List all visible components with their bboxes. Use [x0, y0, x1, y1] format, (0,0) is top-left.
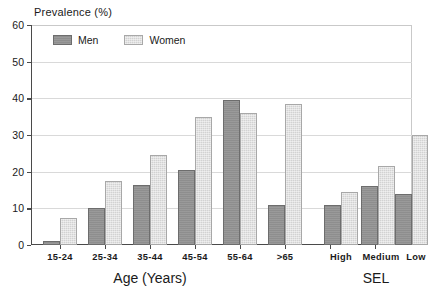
x-label-low: Low	[406, 252, 426, 262]
bar-men-low	[395, 194, 412, 245]
y-tick-label-20: 20	[2, 166, 24, 178]
y-tick-label-30: 30	[2, 129, 24, 141]
bar-men-high	[324, 205, 341, 245]
x-tick-mark-6	[330, 245, 331, 249]
panel-title-sel: SEL	[363, 270, 389, 286]
chart-legend: Men Women	[53, 34, 211, 46]
bar-women-high	[341, 192, 358, 245]
bar-men-25-34	[88, 208, 105, 245]
bar-men-15-24	[43, 241, 60, 245]
panel-title-age: Age (Years)	[113, 270, 186, 286]
legend-swatch-women-icon	[124, 35, 143, 45]
x-tick-mark-2	[150, 245, 151, 249]
x-tick-mark-1	[105, 245, 106, 249]
legend-item-men: Men	[53, 34, 124, 46]
x-tick-mark-3	[195, 245, 196, 249]
bar-women-low	[412, 135, 428, 245]
x-tick-mark-0	[60, 245, 61, 249]
y-axis-title: Prevalence (%)	[34, 6, 112, 18]
bar-men-55-64	[223, 100, 240, 245]
x-label-45-54: 45-54	[182, 252, 207, 262]
x-tick-mark-7	[375, 245, 376, 249]
x-label-55-64: 55-64	[227, 252, 252, 262]
bar-women-15-24	[60, 218, 77, 246]
bar-men-35-44	[133, 185, 150, 246]
bars-layer	[31, 25, 412, 245]
legend-label-men: Men	[78, 34, 98, 46]
x-label-high: High	[330, 252, 352, 262]
bar-women-25-34	[105, 181, 122, 245]
x-label-25-34: 25-34	[92, 252, 117, 262]
bar-men-45-54	[178, 170, 195, 245]
x-label-medium: Medium	[363, 252, 400, 262]
y-tick-label-50: 50	[2, 56, 24, 68]
y-tick-label-0: 0	[2, 239, 24, 251]
legend-item-women: Women	[124, 34, 211, 46]
x-label-15-24: 15-24	[47, 252, 72, 262]
x-tick-mark-5	[285, 245, 286, 249]
bar-women-55-64	[240, 113, 257, 245]
y-tick-mark-0	[27, 245, 31, 246]
legend-swatch-men-icon	[53, 35, 72, 45]
x-label-35-44: 35-44	[137, 252, 162, 262]
bar-women-45-54	[195, 117, 212, 245]
x-tick-mark-4	[240, 245, 241, 249]
y-tick-label-60: 60	[2, 19, 24, 31]
y-tick-label-40: 40	[2, 92, 24, 104]
y-tick-label-10: 10	[2, 202, 24, 214]
bar-women-35-44	[150, 155, 167, 245]
bar-women-medium	[378, 166, 395, 245]
x-label-over-65: >65	[277, 252, 294, 262]
legend-label-women: Women	[149, 34, 185, 46]
bar-men-over-65	[268, 205, 285, 245]
bar-women-over-65	[285, 104, 302, 245]
bar-men-medium	[361, 186, 378, 245]
